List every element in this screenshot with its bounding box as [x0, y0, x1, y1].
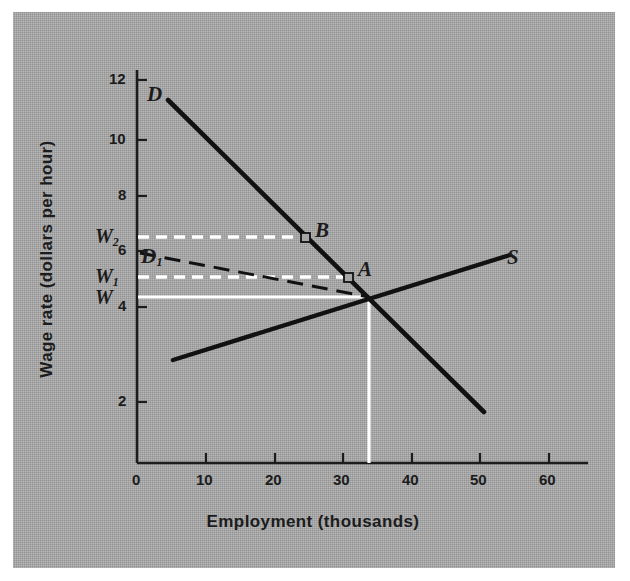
y-tick-label-12: 12 — [109, 70, 126, 87]
wage-label-w2-text: W — [95, 225, 113, 247]
chart-panel: 12 10 8 6 4 2 0 10 20 30 40 50 60 D S D1… — [13, 12, 615, 568]
y-axis-title: Wage rate (dollars per hour) — [37, 94, 57, 424]
curve-label-d: D — [147, 82, 162, 107]
point-label-a: A — [358, 257, 372, 282]
wage-label-w2-subscript: 2 — [113, 235, 119, 249]
wage-label-w2: W2 — [95, 225, 119, 250]
x-tick-label-50: 50 — [470, 471, 487, 488]
y-tick-label-8: 8 — [118, 186, 126, 203]
curve-d1 — [140, 253, 369, 297]
x-tick-label-60: 60 — [539, 471, 556, 488]
y-tick-label-6: 6 — [118, 241, 126, 258]
x-axis-ticks — [206, 453, 549, 463]
data-point-b — [301, 233, 310, 242]
x-tick-label-20: 20 — [265, 471, 282, 488]
wage-label-w1-text: W — [95, 265, 113, 287]
curve-label-d1: D1 — [141, 244, 163, 270]
curve-label-d1-subscript: 1 — [156, 254, 163, 269]
x-tick-label-0: 0 — [132, 471, 140, 488]
x-tick-label-10: 10 — [196, 471, 213, 488]
point-label-b: B — [315, 218, 329, 243]
x-tick-label-40: 40 — [402, 471, 419, 488]
curve-label-s: S — [507, 245, 519, 270]
y-axis-ticks — [137, 80, 147, 402]
x-axis-title: Employment (thousands) — [133, 512, 493, 532]
curve-d — [168, 100, 484, 412]
figure-container: 12 10 8 6 4 2 0 10 20 30 40 50 60 D S D1… — [0, 0, 630, 581]
x-tick-label-30: 30 — [333, 471, 350, 488]
data-point-a — [344, 273, 353, 282]
y-tick-label-4: 4 — [118, 297, 126, 314]
y-tick-label-10: 10 — [109, 130, 126, 147]
y-tick-label-2: 2 — [118, 392, 126, 409]
curve-label-d1-text: D — [141, 244, 156, 268]
wage-label-w: W — [95, 286, 113, 309]
wage-label-w1-subscript: 1 — [113, 275, 119, 289]
